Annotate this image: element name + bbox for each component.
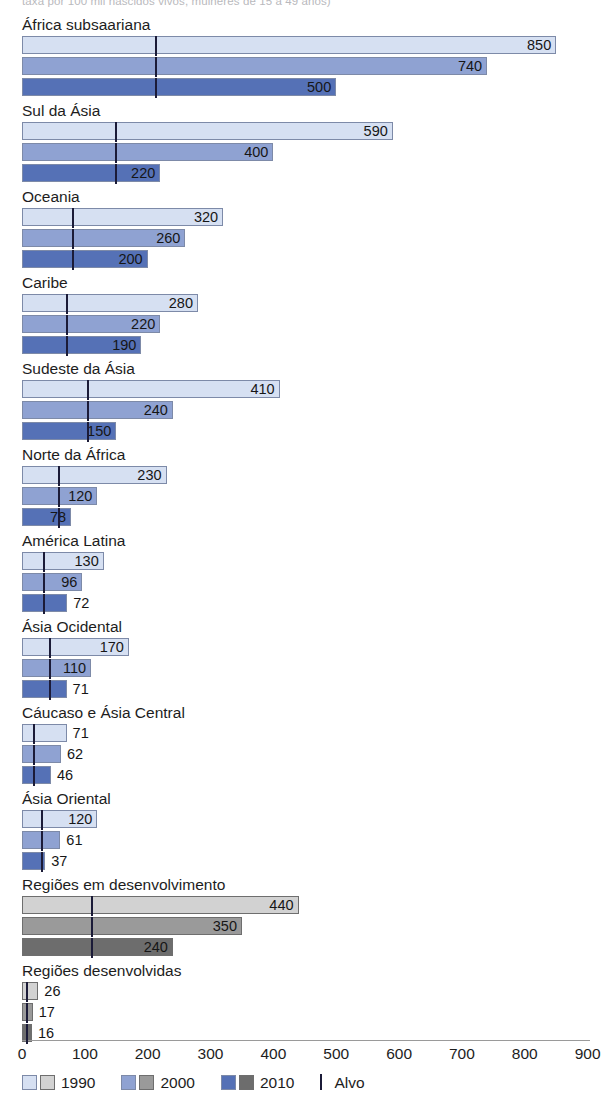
bar-2000 bbox=[22, 917, 242, 935]
bar-value: 350 bbox=[213, 917, 237, 935]
target-marker bbox=[26, 1024, 28, 1044]
bar-row: 590 bbox=[22, 122, 393, 140]
group-label: Ásia Oriental bbox=[22, 789, 111, 808]
bar-value: 62 bbox=[67, 745, 83, 763]
target-marker bbox=[155, 36, 157, 56]
bar-row: 200 bbox=[22, 250, 148, 268]
target-marker bbox=[87, 401, 89, 421]
bar-2010 bbox=[22, 766, 51, 784]
bar-value: 110 bbox=[63, 659, 86, 677]
legend-item-2010[interactable]: 2010 bbox=[221, 1074, 294, 1091]
bar-value: 150 bbox=[87, 422, 111, 440]
bar-value: 230 bbox=[137, 466, 161, 484]
bar-row: 78 bbox=[22, 508, 71, 526]
bar-row: 150 bbox=[22, 422, 116, 440]
group-label: Sul da Ásia bbox=[22, 101, 100, 120]
bar-value: 190 bbox=[112, 336, 136, 354]
legend-target-label: Alvo bbox=[334, 1074, 364, 1091]
bar-value: 850 bbox=[527, 36, 551, 54]
target-marker bbox=[41, 810, 43, 830]
target-marker bbox=[72, 208, 74, 228]
target-marker bbox=[58, 508, 60, 528]
bar-row: 110 bbox=[22, 659, 91, 677]
target-marker bbox=[91, 896, 93, 916]
target-marker bbox=[66, 315, 68, 335]
target-marker bbox=[66, 294, 68, 314]
target-marker bbox=[87, 422, 89, 442]
legend-item-1990[interactable]: 1990 bbox=[22, 1074, 95, 1091]
target-marker bbox=[66, 336, 68, 356]
bar-value: 17 bbox=[39, 1003, 55, 1021]
axis-tick-600: 600 bbox=[386, 1044, 412, 1064]
target-marker bbox=[41, 852, 43, 872]
bar-1990 bbox=[22, 36, 556, 54]
bar-row: 440 bbox=[22, 896, 299, 914]
target-marker bbox=[72, 250, 74, 270]
bar-value: 400 bbox=[244, 143, 268, 161]
bar-row: 190 bbox=[22, 336, 141, 354]
maternal-mortality-bar-chart: taxa por 100 mil nascidos vivos, mulhere… bbox=[0, 0, 615, 1101]
group-label: América Latina bbox=[22, 531, 125, 550]
bar-value: 200 bbox=[118, 250, 142, 268]
group-label: Norte da África bbox=[22, 445, 125, 464]
chart-legend: 199020002010Alvo bbox=[22, 1070, 365, 1094]
legend-label: 1990 bbox=[61, 1074, 95, 1091]
plot-area: África subsaariana850740500Sul da Ásia59… bbox=[0, 12, 615, 1032]
bar-value: 260 bbox=[156, 229, 180, 247]
bar-value: 410 bbox=[250, 380, 274, 398]
bar-row: 500 bbox=[22, 78, 336, 96]
bar-row: 350 bbox=[22, 917, 242, 935]
bar-value: 72 bbox=[73, 594, 89, 612]
legend-swatch-blue-icon bbox=[221, 1075, 236, 1090]
axis-tick-900: 900 bbox=[575, 1044, 601, 1064]
bar-row: 260 bbox=[22, 229, 185, 247]
bar-row: 240 bbox=[22, 938, 173, 956]
target-marker bbox=[26, 982, 28, 1002]
bar-value: 130 bbox=[75, 552, 99, 570]
bar-value: 280 bbox=[169, 294, 193, 312]
legend-label: 2010 bbox=[260, 1074, 294, 1091]
axis-tick-400: 400 bbox=[260, 1044, 286, 1064]
bar-1990 bbox=[22, 896, 299, 914]
target-marker bbox=[49, 680, 51, 700]
bar-value: 240 bbox=[144, 938, 168, 956]
group-label: Sudeste da Ásia bbox=[22, 359, 135, 378]
axis-baseline bbox=[22, 1040, 590, 1041]
bar-value: 740 bbox=[458, 57, 482, 75]
bar-value: 96 bbox=[61, 573, 77, 591]
bar-value: 220 bbox=[131, 315, 155, 333]
bar-2000 bbox=[22, 57, 487, 75]
group-label: Cáucaso e Ásia Central bbox=[22, 703, 185, 722]
target-marker bbox=[43, 573, 45, 593]
bar-value: 590 bbox=[364, 122, 388, 140]
axis-tick-500: 500 bbox=[323, 1044, 349, 1064]
bar-row: 400 bbox=[22, 143, 273, 161]
bar-1990 bbox=[22, 380, 280, 398]
group-label: Oceania bbox=[22, 187, 80, 206]
legend-swatch-gray-icon bbox=[40, 1075, 55, 1090]
legend-item-2000[interactable]: 2000 bbox=[121, 1074, 194, 1091]
target-marker bbox=[115, 143, 117, 163]
target-marker bbox=[49, 659, 51, 679]
bar-row: 46 bbox=[22, 766, 51, 784]
bar-value: 71 bbox=[73, 724, 89, 742]
target-marker bbox=[115, 164, 117, 184]
target-marker bbox=[33, 745, 35, 765]
axis-tick-700: 700 bbox=[449, 1044, 475, 1064]
bar-row: 410 bbox=[22, 380, 280, 398]
axis-tick-800: 800 bbox=[512, 1044, 538, 1064]
target-marker bbox=[33, 766, 35, 786]
bar-value: 61 bbox=[66, 831, 82, 849]
bar-row: 230 bbox=[22, 466, 167, 484]
axis-tick-200: 200 bbox=[135, 1044, 161, 1064]
axis-tick-300: 300 bbox=[198, 1044, 224, 1064]
target-marker bbox=[58, 466, 60, 486]
bar-value: 320 bbox=[194, 208, 218, 226]
x-axis-ticks: 0100200300400500600700800900 bbox=[0, 1044, 615, 1066]
bar-row: 26 bbox=[22, 982, 38, 1000]
legend-swatch-blue-icon bbox=[121, 1075, 136, 1090]
bar-row: 96 bbox=[22, 573, 82, 591]
bar-row: 120 bbox=[22, 810, 97, 828]
bar-2010 bbox=[22, 680, 67, 698]
bar-row: 280 bbox=[22, 294, 198, 312]
